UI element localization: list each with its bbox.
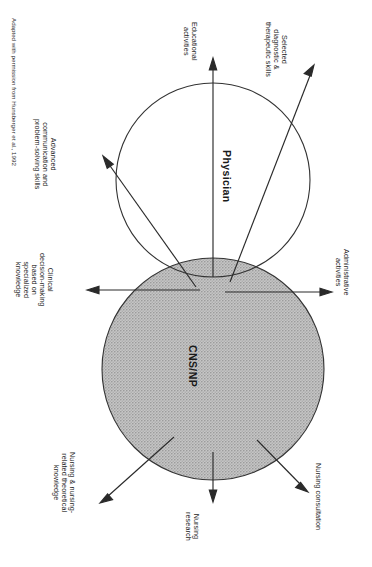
callout-educational-line1: Educational bbox=[190, 22, 198, 61]
callout-nursing-knowledge-line2: related theoretical bbox=[60, 452, 68, 513]
callout-clinical-decision-line5: knowledge bbox=[14, 253, 22, 306]
callout-nursing-research-line2: research bbox=[184, 512, 192, 541]
cns-np-circle bbox=[102, 258, 324, 480]
callout-clinical-decision: Clinical decision-making based on specia… bbox=[14, 253, 54, 306]
callout-nursing-consultation: Nursing consultation bbox=[314, 463, 322, 530]
callout-nursing-knowledge-line3: knowledge bbox=[52, 452, 60, 513]
callout-clinical-decision-line2: decision-making bbox=[38, 253, 46, 306]
callout-educational: Educational activities bbox=[182, 22, 198, 61]
callout-communication-line3: problem-solving skills bbox=[33, 119, 41, 190]
callout-administrative-line1: Administrative bbox=[342, 249, 350, 296]
callout-clinical-decision-line4: specialized bbox=[22, 253, 30, 306]
physician-label: Physician bbox=[220, 150, 232, 203]
callout-diagnostic-line1: Selected bbox=[280, 22, 288, 77]
callout-nursing-consultation-line1: Nursing consultation bbox=[314, 463, 322, 530]
diagram-canvas: Adapted with permission from Hunsberger … bbox=[0, 0, 372, 567]
callout-educational-line2: activities bbox=[182, 22, 190, 61]
cns-np-label: CNS/NP bbox=[186, 345, 198, 387]
callout-administrative-line2: activities bbox=[334, 249, 342, 296]
credit-line: Adapted with permission from Hunsberger … bbox=[10, 18, 17, 166]
callout-nursing-knowledge: Nursing & nursing- related theoretical k… bbox=[52, 452, 76, 513]
callout-diagnostic: Selected diagnostic & therapeutic skills bbox=[264, 22, 288, 77]
callout-nursing-research: Nursing research bbox=[184, 512, 200, 541]
callout-communication: Advanced communication and problem-solvi… bbox=[33, 119, 57, 190]
callout-diagnostic-line3: therapeutic skills bbox=[264, 22, 272, 77]
callout-nursing-research-line1: Nursing bbox=[192, 512, 200, 541]
callout-administrative: Administrative activities bbox=[334, 249, 350, 296]
callout-diagnostic-line2: diagnostic & bbox=[272, 22, 280, 77]
callout-clinical-decision-line1: Clinical bbox=[46, 253, 54, 306]
callout-communication-line2: communication and bbox=[41, 119, 49, 190]
callout-clinical-decision-line3: based on bbox=[30, 253, 38, 306]
callout-nursing-knowledge-line1: Nursing & nursing- bbox=[68, 452, 76, 513]
callout-communication-line1: Advanced bbox=[49, 119, 57, 190]
